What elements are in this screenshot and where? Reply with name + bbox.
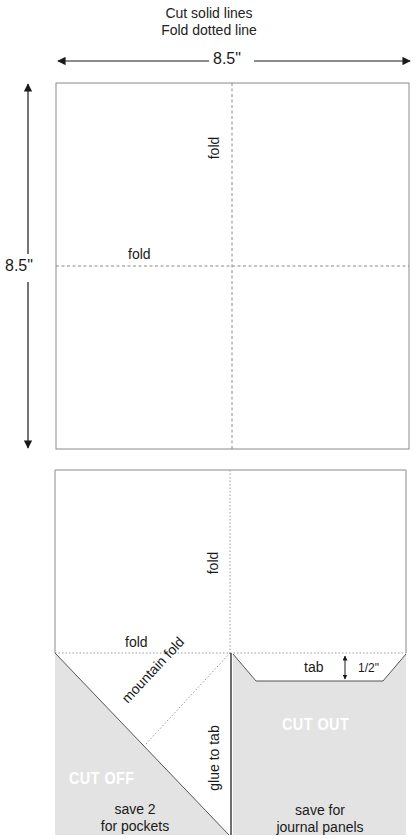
upper-square (56, 83, 409, 449)
cut-off-stamp: CUT OFF (69, 769, 135, 789)
cut-out-stamp: CUT OUT (282, 715, 349, 735)
cut-out-note: save for journal panels (255, 802, 385, 836)
cut-off-note-line1: save 2 (80, 801, 190, 818)
pocket-template-diagram (0, 0, 418, 839)
upper-fold-horizontal-label: fold (128, 246, 151, 262)
cut-off-note-line2: for pockets (80, 818, 190, 835)
lower-fold-horizontal-label: fold (125, 634, 148, 650)
width-dimension-label: 8.5" (209, 50, 245, 68)
lower-fold-vertical-label: fold (205, 552, 221, 575)
cut-off-note: save 2 for pockets (80, 801, 190, 835)
cut-out-note-line1: save for (255, 802, 385, 819)
glue-to-tab-label: glue to tab (206, 725, 222, 790)
height-dimension-label: 8.5" (1, 257, 37, 275)
upper-fold-vertical-label: fold (206, 137, 222, 160)
tab-height-label: 1/2" (358, 661, 379, 675)
tab-label: tab (304, 659, 323, 675)
cut-out-note-line2: journal panels (255, 819, 385, 836)
